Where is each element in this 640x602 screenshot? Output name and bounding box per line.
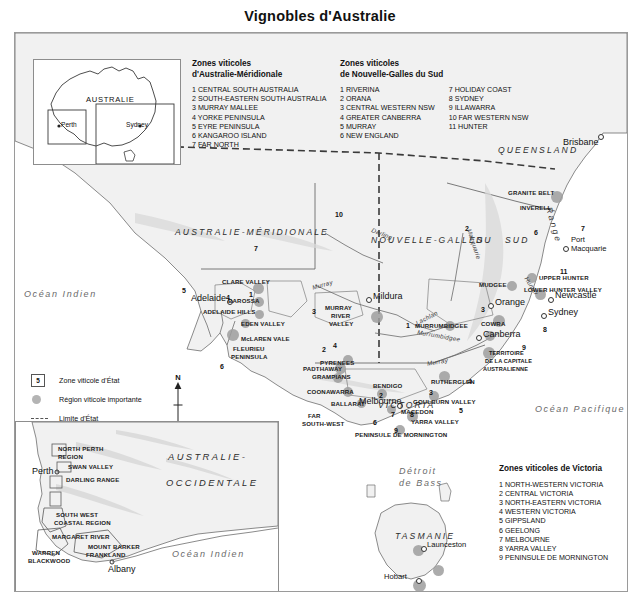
legend-sa-item: 3 MURRAY MALLEE: [192, 104, 326, 113]
zone-number-nsw-6: 6: [534, 229, 538, 236]
region-label-mudgee: MUDGEE: [479, 282, 507, 288]
blob-mclaren-vale: [227, 329, 239, 341]
state-label-queensland: QUEENSLAND: [498, 146, 578, 155]
zone-number-sa-1: 1: [249, 291, 253, 298]
legend-nsw-title-2: de Nouvelle-Galles du Sud: [340, 70, 528, 81]
legend-sa-title-1: Zones viticoles: [192, 59, 326, 70]
legend-nsw-item: 8 SYDNEY: [449, 95, 529, 104]
region-label-mclaren-vale: McLAREN VALE: [241, 336, 290, 342]
region-label-cowra: COWRA: [481, 321, 505, 327]
wa-ocean-label: Océan Indien: [172, 550, 245, 559]
territory-label-line1: TERRITOIRE: [489, 351, 524, 357]
city-label-sydney: Sydney: [548, 308, 578, 317]
wa-region-label: MOUNT BARKER: [88, 544, 140, 550]
wa-city-label-albany: Albany: [108, 565, 136, 574]
legend-nsw-item: 10 FAR WESTERN NSW: [449, 114, 529, 123]
legend-sa-item: 2 SOUTH-EASTERN SOUTH AUSTRALIA: [192, 95, 326, 104]
zone-number-vic-7: 7: [391, 411, 395, 418]
region-label-yarra-valley: YARRA VALLEY: [411, 419, 459, 425]
city-label-adelaide: Adelaide: [191, 294, 226, 303]
region-label-inverell: INVERELL: [520, 205, 551, 211]
wa-region-label: MARGARET RIVER: [52, 534, 110, 540]
zone-number-nsw-2: 2: [465, 225, 469, 232]
wa-region-label: COASTAL REGION: [54, 520, 111, 526]
zone-number-vic-6: 6: [373, 419, 377, 426]
legend-nsw-item: 2 ORANA: [340, 95, 435, 104]
zone-number-nsw-10: 10: [335, 211, 343, 218]
legend-nsw-item: 3 CENTRAL WESTERN NSW: [340, 104, 435, 113]
legend-nsw-item: 4 GREATER CANBERRA: [340, 114, 435, 123]
inset-label-perth: Perth: [61, 122, 77, 129]
wa-region-label: FRANKLAND: [86, 552, 126, 558]
legend-sa-item: 4 YORKE PENINSULA: [192, 114, 326, 123]
zone-number-sa-2: 2: [322, 346, 326, 353]
legend-vic-item: 3 NORTH-EASTERN VICTORIA: [499, 499, 608, 508]
map-key-row-zone: 5 Zone viticole d'État: [31, 373, 142, 388]
zone-number-nsw-8: 8: [543, 326, 547, 333]
zone-number-nsw-1: 1: [406, 322, 410, 329]
region-label-murrumbidgee: MURRUMBIDGEE: [415, 323, 468, 329]
zone-number-vic-3: 3: [429, 389, 433, 396]
region-label-adelaide-hills: ADELAIDE HILLS: [203, 309, 256, 315]
legend-nsw-item: 11 HUNTER: [449, 123, 529, 132]
city-dot-port-macquarie: [563, 246, 569, 252]
city-label-launceston: Launceston: [427, 541, 466, 549]
blob-mudgee: [507, 281, 517, 291]
region-label-coonawarra: COONAWARRA: [307, 389, 354, 395]
region-label-macedon: MACEDON: [401, 409, 434, 415]
legend-vic-item: 7 MELBOURNE: [499, 536, 608, 545]
zone-number-sa-6: 6: [220, 363, 224, 370]
zone-number-vic-2: 2: [379, 392, 383, 399]
region-label-river: RIVER: [331, 313, 350, 319]
region-symbol: [31, 395, 53, 404]
zone-number-vic-5: 5: [459, 407, 463, 414]
inset-locator-svg: [34, 60, 180, 164]
ocean-label-pacific: Océan Pacifique: [535, 405, 625, 414]
tasmania-outline-inset: [124, 150, 135, 161]
ocean-label-indian: Océan Indien: [24, 290, 97, 299]
bass-strait-label-line1: Détroit: [399, 467, 437, 476]
map-key-zone-label: Zone viticole d'État: [59, 376, 120, 385]
legend-vic-item: 2 CENTRAL VICTORIA: [499, 490, 608, 499]
inset-label-sydney: Sydney: [126, 122, 148, 129]
city-label-port: Port: [571, 236, 585, 244]
territory-label-line3: AUSTRALIENNE: [483, 367, 528, 373]
legend-sa-item: 5 EYRE PENINSULA: [192, 123, 326, 132]
legend-nsw-item: 7 HOLIDAY COAST: [449, 86, 529, 95]
inset-label-australie: AUSTRALIE: [86, 96, 135, 104]
city-dot-canberra: [476, 335, 482, 341]
map-frame: AUSTRALIE-MÉRIDIONALE NOUVELLE-GALLES DU…: [14, 32, 628, 592]
region-label-valley: VALLEY: [329, 321, 354, 327]
zone-number-sa-4: 4: [226, 294, 230, 301]
wa-region-label: REGION: [58, 454, 83, 460]
region-label-mornington: PENINSULE DE MORNINGTON: [355, 432, 447, 438]
blob-tamar: [433, 565, 444, 576]
city-label-canberra: Canberra: [483, 330, 521, 339]
city-label-macquarie: Macquarie: [571, 245, 606, 253]
legend-vic-title: Zones viticoles de Victoria: [499, 464, 608, 475]
zone-number-sa-7: 7: [254, 245, 258, 252]
region-label-upper-hunter: UPPER HUNTER: [539, 275, 589, 281]
region-label-lower-hunter-valley: LOWER HUNTER VALLEY: [524, 287, 602, 293]
legend-nsw-item: 9 ILLAWARRA: [449, 104, 529, 113]
city-label-hobart: Hobart: [384, 573, 407, 581]
region-label-padthaway: PADTHAWAY: [303, 366, 342, 372]
inset-western-australia: AUSTRALIE- OCCIDENTALE Océan Indien Pert…: [15, 421, 279, 592]
wa-state-label-line2: OCCIDENTALE: [166, 478, 258, 487]
legend-nsw-item: 6 NEW ENGLAND: [340, 132, 435, 141]
north-arrow-icon: [171, 382, 185, 424]
city-label-mildura: Mildura: [373, 292, 403, 301]
city-dot-hobart: [416, 578, 422, 584]
zone-number-nsw-9: 9: [522, 344, 526, 351]
legend-nsw-item: 5 MURRAY: [340, 123, 435, 132]
wa-region-label: SWAN VALLEY: [68, 464, 113, 470]
region-label-far: FAR: [308, 413, 321, 419]
legend-vic-item: 6 GEELONG: [499, 527, 608, 536]
region-label-granite-belt: GRANITE BELT: [508, 190, 554, 196]
zone-number-vic-4: 4: [333, 342, 337, 349]
legend-nsw-item: 1 RIVERINA: [340, 86, 435, 95]
legend-sa-item: 7 FAR NORTH: [192, 141, 326, 150]
region-label-fleurieu: FLEURIEU: [233, 346, 265, 352]
legend-nsw-title-1: Zones viticoles: [340, 59, 528, 70]
region-label-goulburn-valley: GOULBURN VALLEY: [413, 399, 476, 405]
